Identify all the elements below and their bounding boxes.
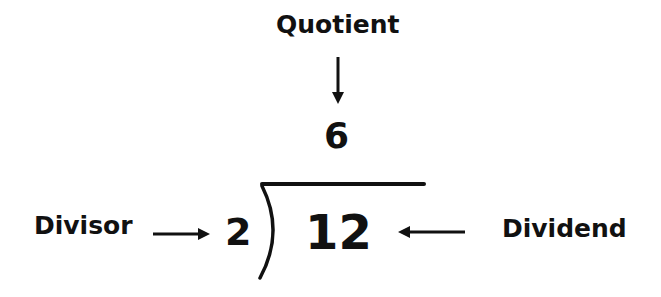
long-division-diagram: Quotient 6 Divisor 2 12 Dividend — [0, 0, 661, 297]
arrow-left-icon — [398, 226, 465, 238]
arrow-right-icon — [153, 228, 210, 240]
arrows-and-bracket — [0, 0, 661, 297]
arrow-down-icon — [332, 57, 344, 104]
division-bracket-icon — [260, 184, 424, 278]
